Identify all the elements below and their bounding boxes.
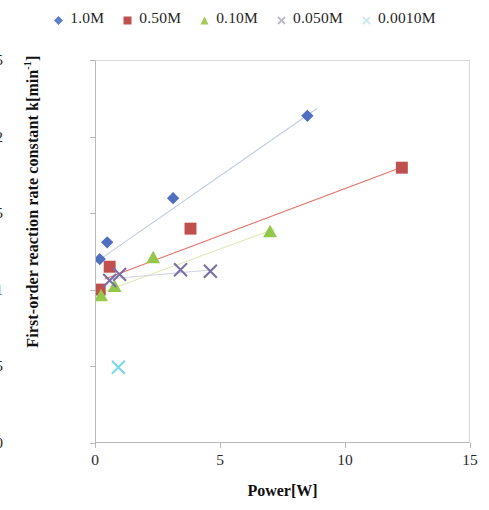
legend-item-0-050M: 0.050M (276, 9, 343, 27)
legend-label: 0.10M (216, 9, 258, 27)
legend-item-1-0M: 1.0M (53, 9, 104, 27)
x-tick-label: 10 (337, 451, 353, 469)
legend-item-0-10M: 0.10M (199, 9, 258, 27)
data-point-0-050M-2 (174, 263, 187, 276)
data-point-0-10M-2 (146, 251, 160, 264)
x-tick-mark (470, 443, 471, 448)
legend-item-0-50M: 0.50M (122, 9, 181, 27)
data-point-0-0010M-0 (112, 361, 125, 374)
x-tick-mark (345, 443, 346, 448)
y-tick-label: 0.02 (0, 128, 3, 146)
y-tick-label: 0.01 (0, 281, 3, 299)
x-tick-label: 15 (462, 451, 478, 469)
data-point-0-10M-3 (263, 225, 277, 238)
legend-item-0-0010M: 0.0010M (361, 9, 436, 27)
square-marker-icon (122, 12, 134, 24)
y-tick-label: 0 (0, 434, 3, 452)
data-point-0-50M-2 (185, 223, 197, 235)
data-point-0-050M-3 (204, 265, 217, 278)
y-tick-label: 0.015 (0, 204, 3, 222)
legend-label: 0.050M (293, 9, 343, 27)
cross-marker-icon (276, 12, 288, 24)
y-axis-title: First-order reaction rate constant k[min… (22, 22, 41, 382)
legend-label: 0.50M (139, 9, 181, 27)
triangle-marker-icon (199, 12, 211, 24)
legend-label: 0.0010M (378, 9, 436, 27)
diamond-marker-icon (53, 12, 65, 24)
y-tick-mark (90, 443, 95, 444)
chart-legend: 1.0M0.50M0.10M0.050M0.0010M (0, 6, 489, 30)
y-tick-label: 0.005 (0, 357, 3, 375)
cross-marker-icon (361, 12, 373, 24)
x-tick-label: 0 (91, 451, 99, 469)
trendline-1-0M (96, 108, 317, 262)
x-tick-label: 5 (216, 451, 224, 469)
legend-label: 1.0M (70, 9, 104, 27)
x-tick-mark (220, 443, 221, 448)
y-tick-label: 0.025 (0, 51, 3, 69)
data-point-0-50M-1 (104, 261, 116, 273)
data-point-1-0M-2 (167, 192, 179, 204)
x-axis-title: Power[W] (95, 482, 470, 500)
plot-area (95, 60, 470, 443)
data-point-0-50M-3 (396, 162, 408, 174)
x-tick-mark (95, 443, 96, 448)
data-point-1-0M-1 (101, 236, 113, 248)
series-layer (96, 61, 469, 442)
trendline-0-10M (101, 229, 275, 293)
